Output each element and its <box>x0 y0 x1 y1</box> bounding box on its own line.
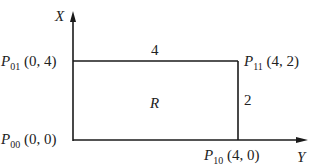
point-p01-label: P01 (0, 4) <box>1 54 56 72</box>
point-p00-label: P00 (0, 0) <box>1 132 56 150</box>
vertical-axis-label: X <box>55 9 64 24</box>
horizontal-axis-label: Y <box>297 150 305 165</box>
point-name: P <box>244 53 253 69</box>
point-coords: (0, 4) <box>24 53 57 69</box>
point-coords: (0, 0) <box>24 131 57 147</box>
point-p10-label: P10 (4, 0) <box>204 148 259 166</box>
x-axis-arrow-icon <box>70 11 76 22</box>
point-subscript: 00 <box>10 139 20 150</box>
top-side-length-label: 4 <box>151 43 159 58</box>
y-axis-arrow-icon <box>296 137 308 143</box>
point-coords: (4, 2) <box>267 53 300 69</box>
point-subscript: 10 <box>213 155 223 166</box>
point-subscript: 11 <box>253 61 263 72</box>
point-name: P <box>1 53 10 69</box>
point-subscript: 01 <box>10 61 20 72</box>
point-coords: (4, 0) <box>227 147 260 163</box>
point-p11-label: P11 (4, 2) <box>244 54 299 72</box>
point-name: P <box>204 147 213 163</box>
right-side-length-label: 2 <box>244 93 252 108</box>
region-label: R <box>150 96 159 111</box>
point-name: P <box>1 131 10 147</box>
